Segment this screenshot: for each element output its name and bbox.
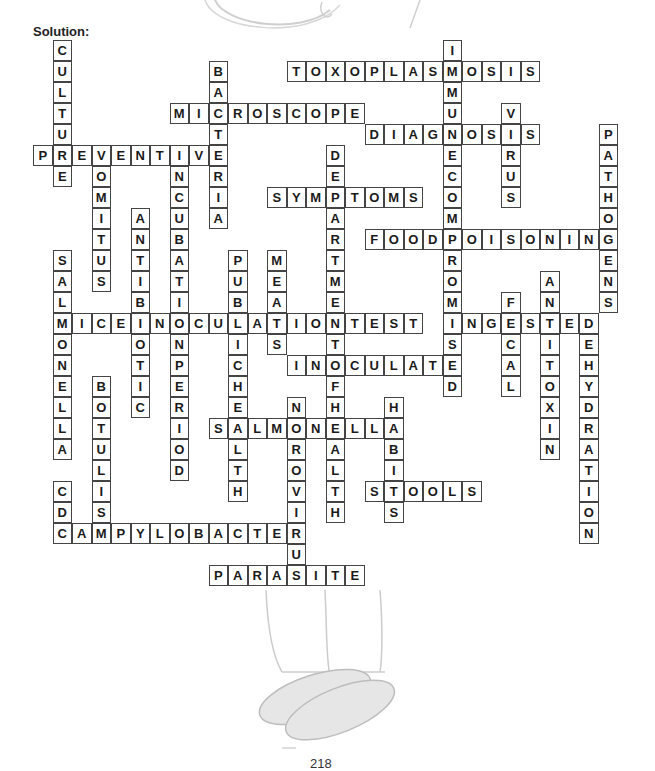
crossword-cell: V [189, 145, 209, 166]
crossword-cell: I [170, 418, 190, 439]
crossword-cell: N [540, 292, 560, 313]
crossword-cell: M [326, 271, 346, 292]
crossword-cell: B [384, 439, 404, 460]
crossword-cell: T [345, 187, 365, 208]
crossword-cell: T [92, 229, 112, 250]
crossword-cell: F [326, 376, 346, 397]
crossword-cell: V [92, 145, 112, 166]
crossword-cell: H [326, 397, 346, 418]
crossword-cell: T [150, 145, 170, 166]
crossword-cell: I [501, 61, 521, 82]
crossword-cell: P [111, 523, 131, 544]
crossword-cell: S [482, 61, 502, 82]
crossword-cell: T [131, 250, 151, 271]
crossword-cell: B [189, 523, 209, 544]
crossword-cell: M [267, 250, 287, 271]
crossword-cell: T [384, 481, 404, 502]
crossword-cell: M [92, 523, 112, 544]
crossword-cell: C [53, 40, 73, 61]
crossword-cell: S [92, 502, 112, 523]
crossword-cell: X [326, 61, 346, 82]
crossword-cell: C [92, 313, 112, 334]
crossword-cell: R [287, 439, 307, 460]
crossword-cell: E [228, 397, 248, 418]
crossword-cell: S [365, 481, 385, 502]
crossword-cell: U [228, 271, 248, 292]
crossword-cell: T [248, 523, 268, 544]
crossword-cell: T [326, 565, 346, 586]
crossword-cell: L [53, 418, 73, 439]
crossword-cell: Y [287, 187, 307, 208]
crossword-cell: L [365, 418, 385, 439]
crossword-cell: I [540, 334, 560, 355]
crossword-cell: P [170, 355, 190, 376]
crossword-cell: L [53, 292, 73, 313]
crossword-cell: S [501, 187, 521, 208]
crossword-cell: T [326, 481, 346, 502]
crossword-cell: C [53, 523, 73, 544]
crossword-cell: E [267, 523, 287, 544]
crossword-cell: O [306, 61, 326, 82]
crossword-cell: M [170, 103, 190, 124]
crossword-cell: R [228, 103, 248, 124]
crossword-cell: L [345, 418, 365, 439]
crossword-cell: O [599, 208, 619, 229]
crossword-cell: U [365, 355, 385, 376]
crossword-cell: L [228, 313, 248, 334]
crossword-cell: T [345, 313, 365, 334]
crossword-cell: S [462, 481, 482, 502]
crossword-cell: R [501, 145, 521, 166]
crossword-cell: A [326, 439, 346, 460]
crossword-cell: R [209, 166, 229, 187]
crossword-cell: E [443, 355, 463, 376]
crossword-cell: D [53, 502, 73, 523]
crossword-cell: A [267, 292, 287, 313]
crossword-cell: O [365, 187, 385, 208]
crossword-cell: O [540, 376, 560, 397]
crossword-cell: C [228, 523, 248, 544]
crossword-cell: E [345, 565, 365, 586]
crossword-cell: Y [131, 523, 151, 544]
crossword-cell: E [53, 376, 73, 397]
crossword-cell: T [599, 166, 619, 187]
crossword-cell: A [599, 145, 619, 166]
crossword-cell: S [521, 313, 541, 334]
crossword-cell: I [501, 124, 521, 145]
crossword-cell: A [384, 418, 404, 439]
crossword-cell: G [423, 124, 443, 145]
crossword-cell: U [287, 544, 307, 565]
crossword-cell: U [92, 250, 112, 271]
crossword-cell: N [579, 523, 599, 544]
crossword-cell: C [287, 103, 307, 124]
crossword-cell: X [540, 397, 560, 418]
crossword-cell: M [306, 187, 326, 208]
crossword-cell: R [170, 397, 190, 418]
crossword-cell: A [72, 523, 92, 544]
crossword-cell: I [560, 229, 580, 250]
crossword-cell: I [579, 481, 599, 502]
crossword-cell: S [384, 502, 404, 523]
crossword-cell: D [365, 124, 385, 145]
crossword-cell: N [306, 355, 326, 376]
crossword-cell: I [384, 124, 404, 145]
crossword-cell: E [170, 376, 190, 397]
crossword-cell: O [326, 355, 346, 376]
crossword-cell: I [287, 502, 307, 523]
crossword-cell: N [540, 229, 560, 250]
crossword-cell: O [248, 103, 268, 124]
crossword-cell: P [228, 250, 248, 271]
crossword-cell: S [209, 418, 229, 439]
crossword-cell: T [404, 313, 424, 334]
crossword-cell: B [92, 376, 112, 397]
crossword-cell: C [345, 355, 365, 376]
crossword-cell: L [228, 439, 248, 460]
crossword-cell: L [501, 376, 521, 397]
crossword-cell: A [53, 271, 73, 292]
crossword-cell: S [443, 334, 463, 355]
crossword-cell: P [326, 103, 346, 124]
crossword-cell: V [501, 103, 521, 124]
crossword-cell: A [404, 355, 424, 376]
crossword-cell: T [423, 355, 443, 376]
crossword-cell: B [131, 292, 151, 313]
crossword-cell: I [170, 292, 190, 313]
